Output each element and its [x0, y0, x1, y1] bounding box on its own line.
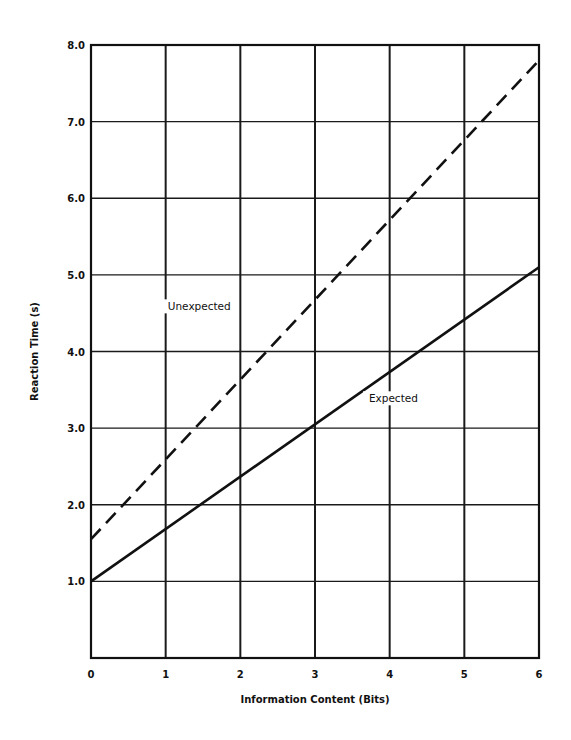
y-tick-label: 5.0 [67, 270, 85, 281]
x-tick-label: 2 [237, 669, 244, 680]
annotation-unexpected: Unexpected [168, 300, 231, 312]
y-tick-label: 1.0 [67, 576, 85, 587]
chart: 0123456 1.02.03.04.05.06.07.08.0 Unexpec… [0, 0, 571, 740]
x-tick-label: 0 [88, 669, 95, 680]
y-tick-label: 4.0 [67, 347, 85, 358]
x-tick-label: 6 [536, 669, 543, 680]
x-axis-label: Information Content (Bits) [240, 694, 389, 705]
x-tick-label: 5 [461, 669, 468, 680]
x-tick-label: 3 [312, 669, 319, 680]
x-tick-label: 1 [162, 669, 169, 680]
y-tick-label: 7.0 [67, 117, 85, 128]
y-tick-label: 6.0 [67, 193, 85, 204]
annotations: UnexpectedExpected [162, 299, 424, 405]
y-tick-label: 8.0 [67, 40, 85, 51]
y-tick-label: 3.0 [67, 423, 85, 434]
grid [91, 45, 539, 658]
y-tick-labels: 1.02.03.04.05.06.07.08.0 [67, 40, 85, 587]
x-tick-label: 4 [386, 669, 393, 680]
y-tick-label: 2.0 [67, 500, 85, 511]
annotation-expected: Expected [369, 392, 418, 404]
x-tick-labels: 0123456 [88, 669, 543, 680]
y-axis-label: Reaction Time (s) [29, 302, 40, 401]
